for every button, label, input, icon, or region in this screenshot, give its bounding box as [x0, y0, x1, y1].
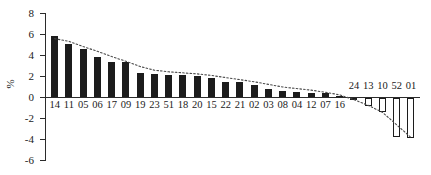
bar	[51, 36, 58, 98]
bar	[308, 93, 315, 98]
bar	[336, 96, 343, 97]
y-tick-mark	[40, 139, 45, 140]
y-tick-label: 4	[6, 50, 34, 61]
bar-chart: % 86420-2-4-6 14110506170919235118201522…	[0, 0, 431, 175]
bar	[65, 44, 72, 97]
y-tick-label: -2	[6, 113, 34, 124]
bar	[350, 98, 357, 101]
bar	[151, 74, 158, 98]
y-tick-mark	[40, 97, 45, 98]
bar	[194, 76, 201, 98]
y-tick-mark	[40, 76, 45, 77]
bar	[251, 85, 258, 98]
y-tick-label: 8	[6, 8, 34, 19]
bar	[137, 73, 144, 97]
bar	[179, 75, 186, 97]
bar	[80, 49, 87, 97]
bar	[279, 91, 286, 97]
bar	[265, 89, 272, 98]
bar	[236, 82, 243, 97]
bar	[365, 98, 372, 107]
bar	[293, 92, 300, 97]
bar	[108, 62, 115, 98]
bar	[322, 93, 329, 97]
bar	[407, 98, 414, 138]
bar	[222, 82, 229, 98]
y-tick-mark	[40, 160, 45, 161]
y-tick-mark	[40, 118, 45, 119]
category-label: 16	[332, 99, 348, 110]
bar	[122, 62, 129, 97]
y-tick-label: 0	[6, 92, 34, 103]
bar	[94, 57, 101, 97]
plot-area: % 86420-2-4-6 14110506170919235118201522…	[0, 0, 431, 175]
bar	[208, 78, 215, 98]
bar	[379, 98, 386, 112]
y-tick-label: 2	[6, 71, 34, 82]
y-tick-label: -4	[6, 134, 34, 145]
category-label: 01	[403, 80, 419, 91]
y-tick-mark	[40, 55, 45, 56]
y-tick-mark	[40, 13, 45, 14]
bar	[165, 75, 172, 98]
y-tick-mark	[40, 34, 45, 35]
y-axis-line	[45, 13, 46, 161]
bar	[393, 98, 400, 138]
y-tick-label: -6	[6, 155, 34, 166]
y-tick-label: 6	[6, 29, 34, 40]
